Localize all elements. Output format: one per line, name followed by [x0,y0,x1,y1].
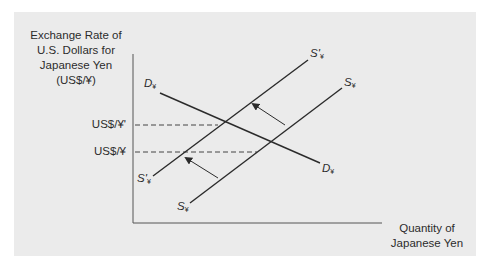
x-axis-label-line: Quantity of [372,221,482,236]
shift-arrow-upper [253,104,285,125]
y-tick-original-rate: US$/¥ [46,145,126,157]
supply-original-curve [190,88,342,203]
y-axis-label-line: U.S. Dollars for [18,43,134,58]
supply-original-label-top: S¥ [344,76,356,89]
supply-shifted-label-bottom: S'¥ [137,172,151,185]
supply-original-label-bottom: S¥ [177,200,189,213]
x-axis-label-line: Japanese Yen [372,236,482,251]
supply-shifted-label-top: S'¥ [310,47,324,60]
y-axis-label-line: Japanese Yen [18,58,134,73]
shift-arrow-lower [186,158,218,178]
x-axis-label: Quantity of Japanese Yen [372,221,482,251]
y-tick-new-rate: US$/¥' [46,118,126,130]
demand-label-bottom: D¥ [322,162,334,175]
supply-shifted-curve [153,60,308,176]
demand-label-top: D¥ [144,77,156,90]
y-axis-label-line: Exchange Rate of [18,28,134,43]
y-axis-label: Exchange Rate of U.S. Dollars for Japane… [18,28,134,88]
y-axis-label-line: (US$/¥) [18,73,134,88]
